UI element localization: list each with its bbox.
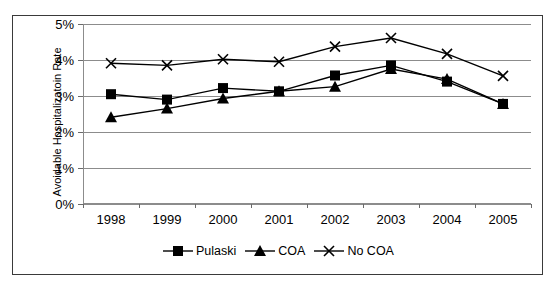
legend-item-label: No COA	[347, 244, 394, 258]
chart-legend: PulaskiCOANo COA	[13, 244, 544, 258]
x-tick-label: 1998	[97, 212, 126, 227]
x-tick	[307, 204, 308, 208]
x-tick	[195, 204, 196, 208]
data-point-marker	[329, 81, 341, 92]
x-tick-label: 2001	[265, 212, 294, 227]
y-tick-label: 1%	[55, 161, 74, 176]
x-tick-label: 2000	[209, 212, 238, 227]
x-tick-label: 2002	[321, 212, 350, 227]
series-coa	[105, 63, 509, 122]
legend-item-no-coa[interactable]: No COA	[314, 244, 394, 258]
x-tick	[419, 204, 420, 208]
x-tick	[251, 204, 252, 208]
x-tick	[139, 204, 140, 208]
x-tick	[83, 204, 84, 208]
y-tick-label: 3%	[55, 89, 74, 104]
y-tick-label: 5%	[55, 17, 74, 32]
legend-marker-x-icon	[314, 244, 344, 258]
y-tick-label: 2%	[55, 125, 74, 140]
x-tick-label: 2005	[489, 212, 518, 227]
x-tick-label: 1999	[153, 212, 182, 227]
series-pulaski	[106, 60, 508, 109]
legend-item-label: COA	[278, 244, 305, 258]
y-tick-label: 4%	[55, 53, 74, 68]
series-layer	[83, 24, 531, 204]
series-no-coa	[106, 33, 508, 81]
x-tick-label: 2003	[377, 212, 406, 227]
legend-marker-square-icon	[163, 244, 193, 258]
legend-item-coa[interactable]: COA	[245, 244, 305, 258]
chart-figure: Avoidable Hospitalizatoin Rate 5%4%3%2%1…	[0, 0, 555, 289]
x-tick	[363, 204, 364, 208]
data-point-marker	[106, 89, 116, 99]
x-tick-label: 2004	[433, 212, 462, 227]
chart-frame: Avoidable Hospitalizatoin Rate 5%4%3%2%1…	[12, 15, 543, 275]
x-tick	[475, 204, 476, 208]
data-point-marker	[218, 83, 228, 93]
data-point-marker	[498, 71, 508, 81]
x-tick	[531, 204, 532, 208]
data-point-marker	[330, 70, 340, 80]
legend-item-label: Pulaski	[196, 244, 236, 258]
legend-marker-triangle-icon	[245, 244, 275, 258]
legend-item-pulaski[interactable]: Pulaski	[163, 244, 236, 258]
data-point-marker	[442, 49, 452, 59]
plot-area: 5%4%3%2%1%0% 199819992000200120022003200…	[83, 24, 531, 204]
y-tick-label: 0%	[55, 197, 74, 212]
